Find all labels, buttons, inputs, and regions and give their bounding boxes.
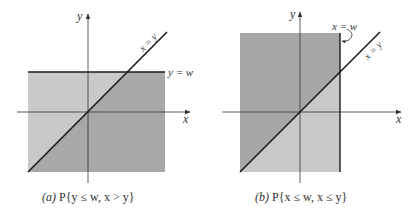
x-axis-label-a: x [182, 112, 189, 126]
caption-b: (b) P{x ≤ w, x ≤ y} [255, 190, 347, 205]
diagram-canvas: y x y = w x = y y x x = w x = y [0, 0, 416, 219]
caption-a-text: P{y ≤ w, x > y} [59, 190, 134, 204]
label-x-equals-w: x = w [331, 20, 358, 32]
panel-a: y x y = w x = y [17, 9, 194, 183]
label-y-equals-w: y = w [167, 66, 194, 78]
caption-b-text: P{x ≤ w, x ≤ y} [272, 190, 347, 204]
caption-b-tag: (b) [255, 190, 269, 204]
y-axis-label-a: y [76, 9, 83, 23]
x-axis-label-b: x [395, 112, 402, 126]
label-x-equals-y-b: x = y [361, 39, 384, 62]
caption-a: (a) P{y ≤ w, x > y} [42, 190, 134, 205]
panel-b: y x x = w x = y [222, 7, 402, 183]
y-axis-label-b: y [289, 7, 296, 21]
caption-a-tag: (a) [42, 190, 56, 204]
